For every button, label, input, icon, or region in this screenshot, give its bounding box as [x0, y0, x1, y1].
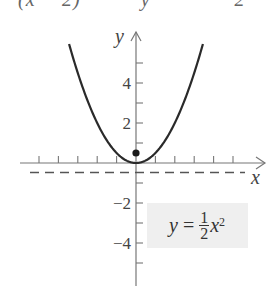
equation-variable: x	[210, 214, 219, 237]
x-axis-label: x	[250, 166, 260, 188]
y-tick-label: −2	[113, 194, 131, 213]
equation-lhs: y	[169, 214, 178, 237]
equation-fraction: 1 2	[199, 210, 209, 241]
y-tick-label: −4	[113, 234, 132, 253]
fraction-numerator: 1	[200, 210, 208, 225]
y-tick-label: 2	[123, 114, 132, 133]
equation-label: y = 1 2 x2	[169, 210, 225, 241]
fraction-denominator: 2	[200, 226, 208, 241]
y-tick-label: 4	[123, 74, 132, 93]
equation-exponent: 2	[219, 215, 225, 230]
equation-equals: =	[183, 214, 194, 237]
y-axis-label: y	[113, 25, 124, 48]
focus-point	[132, 149, 139, 156]
equation-label-box: y = 1 2 x2	[147, 203, 248, 248]
